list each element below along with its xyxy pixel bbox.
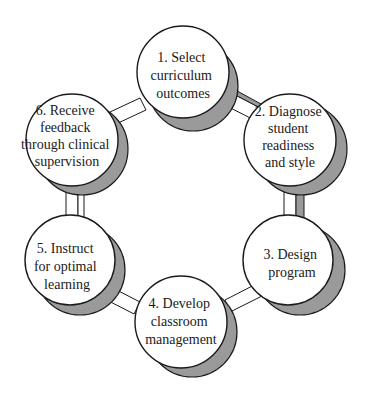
- cycle-diagram: 1. Select curriculum outcomes 2. Diagnos…: [0, 0, 367, 397]
- node-4-label: 4. Develop classroom management: [145, 296, 217, 347]
- node-1-label: 1. Select curriculum outcomes: [151, 50, 216, 101]
